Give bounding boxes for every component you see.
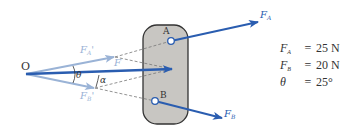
force-a-prime-main: F <box>80 44 87 55</box>
force-b-label-sub: B <box>231 113 235 120</box>
force-a-label-sub: A <box>267 14 271 21</box>
force-b-label: FB <box>224 108 235 120</box>
force-b-prime-label: FB' <box>80 90 94 102</box>
origin-label: O <box>21 60 30 73</box>
given-value: 25° <box>316 74 333 91</box>
given-row-fa: FA = 25 N <box>280 40 340 57</box>
given-value: 20 N <box>316 57 340 74</box>
alpha-arc <box>96 75 99 87</box>
force-b-label-main: F <box>224 108 231 119</box>
force-a-prime-mark: ' <box>91 44 94 55</box>
resultant-label: F <box>114 57 121 68</box>
given-symbol: FA <box>280 40 300 57</box>
pin-a <box>168 38 175 45</box>
given-eq: = <box>300 74 316 91</box>
given-row-fb: FB = 20 N <box>280 57 340 74</box>
given-row-theta: θ = 25° <box>280 74 340 91</box>
theta-arc <box>73 66 75 83</box>
pin-b <box>152 98 159 105</box>
force-a-prime-label: FA' <box>80 44 94 56</box>
force-b-prime-main: F <box>80 90 87 101</box>
given-values: FA = 25 N FB = 20 N θ = 25° <box>280 40 340 91</box>
force-b-prime-arrow <box>26 74 94 88</box>
given-eq: = <box>300 40 316 57</box>
given-value: 25 N <box>316 40 340 57</box>
given-symbol: θ <box>280 74 300 91</box>
force-b-prime-mark: ' <box>91 90 94 101</box>
given-eq: = <box>300 57 316 74</box>
given-symbol: FB <box>280 57 300 74</box>
pin-a-label: A <box>163 26 170 36</box>
theta-label: θ <box>76 70 81 80</box>
force-a-label-main: F <box>260 9 267 20</box>
force-a-label: FA <box>260 9 271 21</box>
pin-b-label: B <box>160 90 167 100</box>
alpha-label: α <box>100 75 106 85</box>
